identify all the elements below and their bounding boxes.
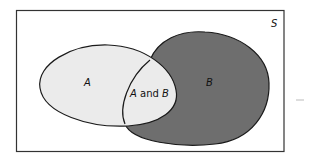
set-b-label: B (206, 77, 213, 88)
intersection-label-b: B (162, 88, 169, 99)
set-a-label: A (83, 77, 91, 88)
intersection-label: A and B (129, 88, 169, 99)
universe-label: S (271, 18, 278, 29)
intersection-label-and: and (137, 88, 162, 99)
intersection-label-a: A (129, 88, 137, 99)
venn-diagram: S A B A and B (0, 0, 310, 160)
